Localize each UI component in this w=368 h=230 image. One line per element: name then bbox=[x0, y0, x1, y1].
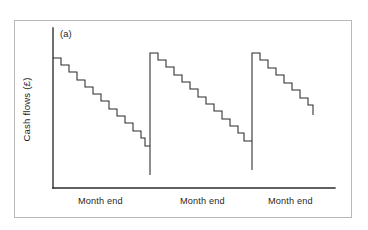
figure-container: (a) Cash flows (£) Month end Month end M… bbox=[0, 0, 368, 230]
axes-group bbox=[53, 28, 335, 188]
cash-flows-sawtooth-line bbox=[53, 53, 313, 175]
y-axis-label: Cash flows (£) bbox=[21, 60, 32, 160]
data-series-group bbox=[53, 53, 313, 175]
panel-label: (a) bbox=[60, 28, 72, 39]
x-tick-label-month-end-3: Month end bbox=[268, 196, 313, 206]
x-tick-label-month-end-2: Month end bbox=[180, 196, 225, 206]
x-tick-label-month-end-1: Month end bbox=[78, 196, 123, 206]
